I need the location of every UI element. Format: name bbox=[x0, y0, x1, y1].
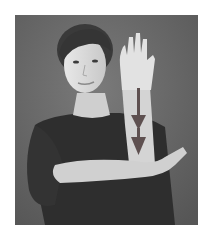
photo-frame bbox=[15, 15, 198, 225]
eye-right bbox=[92, 59, 98, 62]
eye-left bbox=[73, 60, 79, 63]
neck bbox=[73, 93, 110, 118]
arrow-1-shaft bbox=[137, 88, 140, 118]
sign-language-photo bbox=[15, 15, 198, 225]
